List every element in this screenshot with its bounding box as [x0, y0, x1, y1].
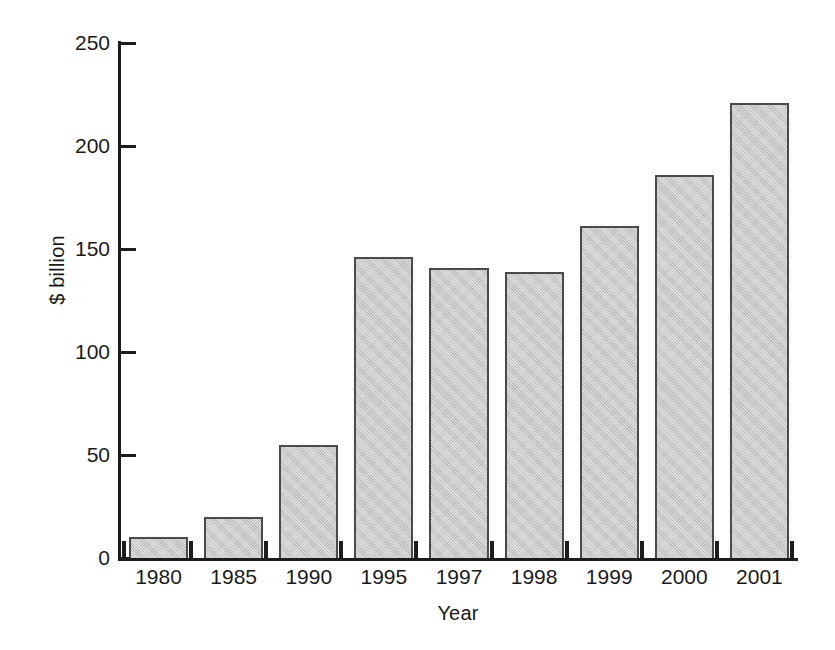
y-tick-mark [121, 351, 136, 354]
y-tick-label: 150 [48, 238, 110, 259]
y-tick-mark [121, 454, 136, 457]
bar [505, 272, 564, 558]
x-tick-label: 1990 [269, 566, 349, 587]
y-tick-mark [121, 42, 136, 45]
y-tick-label: 250 [48, 32, 110, 53]
y-tick-label: 50 [48, 444, 110, 465]
x-axis-line [118, 558, 798, 561]
x-tick-mark [339, 541, 343, 558]
x-tick-mark [565, 541, 569, 558]
x-tick-label: 2000 [644, 566, 724, 587]
x-tick-mark [490, 541, 494, 558]
bar [129, 537, 188, 558]
x-axis-title: Year [118, 602, 798, 625]
y-tick-label: 0 [48, 547, 110, 568]
x-tick-mark [122, 541, 126, 558]
x-tick-mark [640, 541, 644, 558]
y-tick-mark [121, 248, 136, 251]
x-tick-mark [715, 541, 719, 558]
x-tick-mark [264, 541, 268, 558]
x-tick-label: 1997 [419, 566, 499, 587]
bar [429, 268, 488, 558]
x-tick-label: 1998 [494, 566, 574, 587]
y-axis-line [118, 41, 121, 561]
bar-chart-figure: $ billion 050100150200250 19801985199019… [0, 0, 835, 650]
x-tick-label: 1985 [194, 566, 274, 587]
x-tick-label: 1999 [569, 566, 649, 587]
bar [730, 103, 789, 558]
bar [204, 517, 263, 558]
bar [580, 226, 639, 558]
y-tick-mark [121, 145, 136, 148]
bar [655, 175, 714, 558]
x-tick-label: 1980 [119, 566, 199, 587]
x-tick-mark [414, 541, 418, 558]
x-tick-label: 1995 [344, 566, 424, 587]
y-tick-label: 100 [48, 341, 110, 362]
y-tick-label: 200 [48, 135, 110, 156]
bar [354, 257, 413, 558]
x-tick-label: 2001 [719, 566, 799, 587]
bar [279, 445, 338, 558]
x-tick-mark [790, 541, 794, 558]
x-tick-mark [189, 541, 193, 558]
